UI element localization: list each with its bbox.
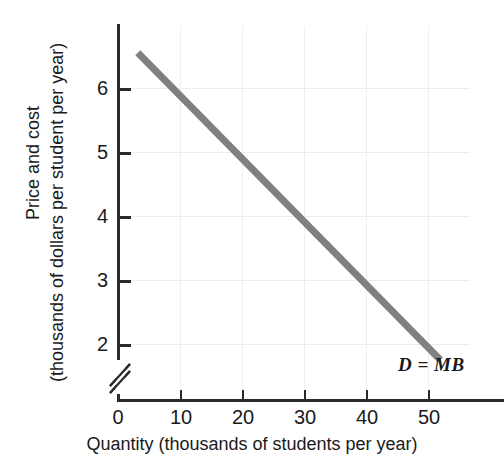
x-axis-tick-label: 20 [221, 406, 265, 428]
x-axis-tick-label: 30 [283, 406, 327, 428]
x-axis-tick [242, 390, 244, 400]
x-axis-tick [180, 390, 182, 400]
y-axis-title: Price and cost (thousands of dollars per… [0, 0, 110, 400]
x-axis-tick-label: 0 [96, 406, 140, 428]
x-axis-title: Quantity (thousands of students per year… [0, 434, 504, 455]
x-axis-tick [428, 390, 430, 400]
x-axis-tick-label: 10 [159, 406, 203, 428]
y-axis-tick [120, 152, 131, 155]
y-axis-tick [120, 88, 131, 91]
demand-marginal-benefit-line [138, 53, 441, 360]
y-axis-tick [120, 280, 131, 283]
y-axis-tick [120, 216, 131, 219]
x-axis-tick [366, 390, 368, 400]
y-axis-line [117, 24, 120, 376]
x-axis-tick [304, 390, 306, 400]
x-axis-tick-label: 40 [345, 406, 389, 428]
demand-curve-annotation: D = MB [398, 354, 465, 376]
chart-figure: 6 5 4 3 2 0 10 20 30 40 50 D = MB Price … [0, 0, 504, 471]
y-axis-title-line-2: (thousands of dollars per student per ye… [47, 43, 68, 382]
x-axis-line [117, 399, 504, 402]
x-axis-tick-label: 50 [407, 406, 451, 428]
y-axis-tick [120, 344, 131, 347]
plot-area [118, 24, 470, 400]
y-axis-title-line-1: Price and cost [23, 106, 44, 220]
